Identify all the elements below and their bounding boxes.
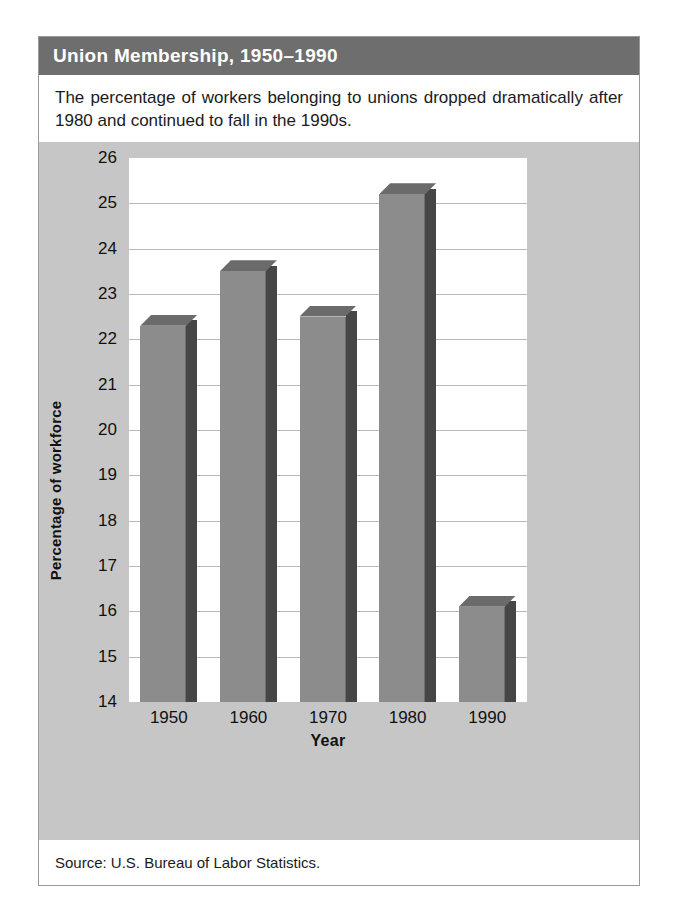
bar [300, 306, 357, 702]
bar-side-face [186, 320, 197, 702]
bar-front-face [459, 607, 505, 702]
x-axis-tick-label: 1990 [468, 708, 506, 728]
y-axis-tick-label: 16 [98, 601, 117, 621]
bar-side-face [425, 189, 436, 702]
y-axis-tick-label: 18 [98, 511, 117, 531]
y-axis-tick-label: 21 [98, 375, 117, 395]
y-axis-tick-label: 24 [98, 239, 117, 259]
bars-layer [129, 158, 527, 702]
figure-title: Union Membership, 1950–1990 [53, 45, 338, 67]
y-axis-tick-label: 15 [98, 647, 117, 667]
figure-title-bar: Union Membership, 1950–1990 [39, 37, 639, 75]
y-axis-tick-label: 26 [98, 148, 117, 168]
figure-caption-area: The percentage of workers belonging to u… [39, 75, 639, 142]
bar-front-face [140, 326, 186, 702]
y-axis-tick-label: 20 [98, 420, 117, 440]
y-axis-tick-label: 25 [98, 193, 117, 213]
y-axis-tick-labels: 14151617181920212223242526 [69, 158, 121, 702]
chart-panel: Percentage of workforce 1415161718192021… [39, 142, 639, 840]
figure-source-area: Source: U.S. Bureau of Labor Statistics. [39, 840, 639, 885]
bar [140, 315, 197, 702]
x-axis-tick-label: 1960 [229, 708, 267, 728]
bar-side-face [266, 266, 277, 702]
bar-front-face [379, 194, 425, 702]
plot-area [129, 158, 527, 702]
y-axis-title: Percentage of workforce [41, 142, 71, 840]
y-axis-tick-label: 14 [98, 692, 117, 712]
bar [459, 596, 516, 702]
x-axis-tick-labels: 19501960197019801990 [129, 708, 527, 732]
figure-caption: The percentage of workers belonging to u… [55, 86, 623, 133]
bar-side-face [505, 601, 516, 702]
bar [379, 183, 436, 702]
bar-front-face [300, 317, 346, 702]
x-axis-tick-label: 1980 [389, 708, 427, 728]
y-axis-title-label: Percentage of workforce [48, 401, 65, 581]
x-axis-title: Year [129, 732, 527, 750]
x-axis-tick-label: 1970 [309, 708, 347, 728]
figure-source: Source: U.S. Bureau of Labor Statistics. [55, 854, 623, 871]
y-axis-tick-label: 23 [98, 284, 117, 304]
y-axis-tick-label: 22 [98, 329, 117, 349]
bar-side-face [346, 311, 357, 702]
x-axis-tick-label: 1950 [150, 708, 188, 728]
bar-front-face [220, 271, 266, 702]
figure-card: Union Membership, 1950–1990 The percenta… [38, 36, 640, 886]
y-axis-tick-label: 19 [98, 465, 117, 485]
y-axis-tick-label: 17 [98, 556, 117, 576]
bar [220, 260, 277, 702]
